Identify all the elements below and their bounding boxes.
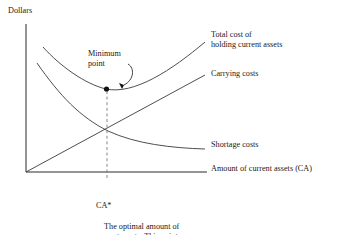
total-cost-curve [43, 42, 205, 90]
minimum-point-marker [104, 86, 109, 91]
total-cost-label: Total cost of holding current assets [211, 30, 282, 50]
current-assets-cost-diagram: Dollars Total cost of holding current as… [0, 0, 355, 235]
minimum-point-label: Minimum point [88, 49, 121, 69]
x-axis-label: Amount of current assets (CA) [211, 164, 312, 174]
y-axis-label: Dollars [8, 6, 32, 16]
optimum-marker-label: CA* [96, 201, 179, 211]
optimum-caption: CA* The optimal amount of current assets… [96, 181, 179, 235]
optimum-caption-text: The optimal amount of current assets. Th… [96, 222, 179, 235]
minimum-point-arrowhead [119, 83, 124, 89]
minimum-point-arrow [124, 64, 133, 85]
shortage-costs-curve [37, 63, 205, 149]
shortage-costs-label: Shortage costs [211, 140, 259, 150]
carrying-costs-label: Carrying costs [211, 69, 259, 79]
